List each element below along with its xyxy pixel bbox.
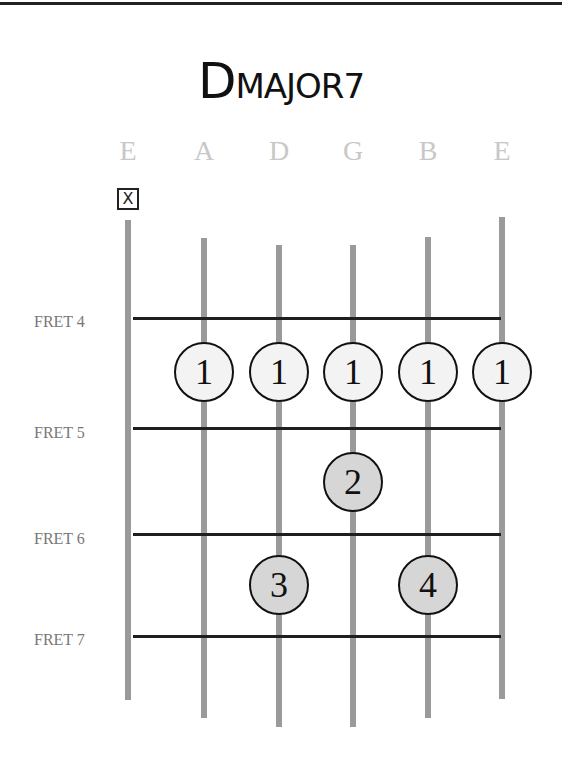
fret-label-6: FRET 6 xyxy=(34,530,85,548)
fret-line-6 xyxy=(133,533,501,536)
chord-title: DMAJOR7 xyxy=(0,52,562,110)
muted-string-icon: X xyxy=(117,188,139,210)
finger-dot-high-e-1: 1 xyxy=(472,342,532,402)
string-a xyxy=(201,238,207,718)
finger-dot-g-1: 1 xyxy=(323,342,383,402)
finger-dot-d-3: 3 xyxy=(249,555,309,615)
fret-line-4 xyxy=(133,317,501,320)
chord-title-quality: MAJOR7 xyxy=(235,66,364,106)
string-name-high-e: E xyxy=(482,135,522,167)
string-name-b: B xyxy=(408,135,448,167)
string-low-e xyxy=(125,220,131,700)
fret-line-7 xyxy=(133,635,501,638)
fret-label-7: FRET 7 xyxy=(34,631,85,649)
string-high-e xyxy=(499,217,505,699)
string-name-d: D xyxy=(259,135,299,167)
fret-label-4: FRET 4 xyxy=(34,313,85,331)
string-name-g: G xyxy=(333,135,373,167)
chord-title-root: D xyxy=(198,52,236,110)
fret-line-5 xyxy=(133,427,501,430)
string-name-low-e: E xyxy=(108,135,148,167)
finger-dot-a-1: 1 xyxy=(174,342,234,402)
fret-label-5: FRET 5 xyxy=(34,424,85,442)
string-name-a: A xyxy=(184,135,224,167)
finger-dot-b-4: 4 xyxy=(398,555,458,615)
finger-dot-d-1: 1 xyxy=(249,342,309,402)
finger-dot-g-2: 2 xyxy=(323,452,383,512)
top-rule xyxy=(0,2,562,5)
string-b xyxy=(425,237,431,718)
finger-dot-b-1: 1 xyxy=(398,342,458,402)
